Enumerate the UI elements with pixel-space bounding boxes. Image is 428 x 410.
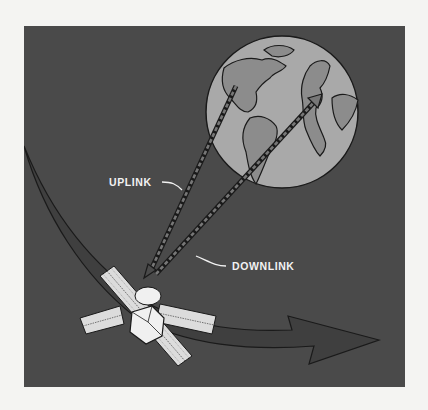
earth-globe <box>206 36 358 188</box>
downlink-label: DOWNLINK <box>232 260 295 272</box>
diagram-svg <box>24 26 405 387</box>
diagram-panel: UPLINK DOWNLINK <box>24 26 405 387</box>
uplink-beam <box>144 86 236 278</box>
uplink-leader-line <box>162 182 182 190</box>
uplink-label: UPLINK <box>109 176 152 188</box>
downlink-leader-line <box>196 256 226 266</box>
satellite-antenna <box>135 287 161 305</box>
